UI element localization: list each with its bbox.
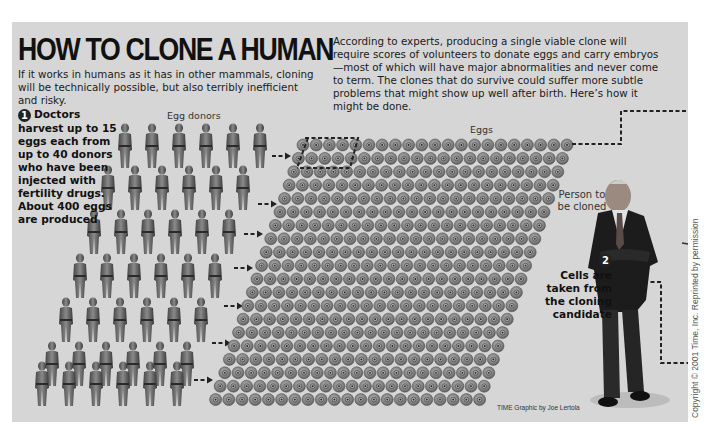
egg-cell-icon	[268, 340, 280, 352]
egg-cell-icon	[399, 380, 411, 392]
egg-cell-icon	[315, 394, 327, 406]
egg-cell-icon	[380, 166, 392, 178]
egg-cell-icon	[394, 394, 406, 406]
egg-cell-icon	[363, 139, 375, 151]
egg-cell-icon	[338, 367, 350, 379]
egg-cell-icon	[485, 206, 497, 218]
egg-cell-icon	[477, 152, 489, 164]
egg-cell-icon	[467, 260, 479, 272]
egg-cell-icon	[355, 394, 367, 406]
egg-cell-icon	[483, 367, 495, 379]
egg-cell-icon	[489, 273, 501, 285]
egg-cell-icon	[428, 219, 440, 231]
egg-cell-icon	[246, 327, 258, 339]
egg-cell-icon	[440, 260, 452, 272]
egg-cell-icon	[272, 327, 284, 339]
egg-cell-icon	[339, 246, 351, 258]
egg-cell-icon	[321, 300, 333, 312]
egg-cell-icon	[296, 179, 308, 191]
egg-cell-icon	[352, 286, 364, 298]
egg-cell-icon	[463, 233, 475, 245]
egg-cell-icon	[423, 233, 435, 245]
egg-cell-icon	[493, 300, 505, 312]
egg-cell-icon	[447, 394, 459, 406]
egg-cell-icon	[448, 313, 460, 325]
cells-to-next-step-line	[644, 282, 688, 363]
egg-cell-icon	[362, 179, 374, 191]
egg-cell-icon	[210, 394, 222, 406]
egg-cell-icon	[408, 353, 420, 365]
egg-cell-icon	[471, 286, 483, 298]
egg-cell-icon	[289, 394, 301, 406]
egg-cell-icon	[228, 340, 240, 352]
egg-cell-icon	[455, 139, 467, 151]
egg-cell-icon	[442, 139, 454, 151]
egg-cell-icon	[336, 179, 348, 191]
egg-cell-icon	[323, 179, 335, 191]
egg-cell-icon	[303, 313, 315, 325]
egg-cell-icon	[492, 340, 504, 352]
egg-cell-icon	[483, 327, 495, 339]
egg-cell-icon	[409, 273, 421, 285]
egg-cell-icon	[504, 152, 516, 164]
egg-cell-icon	[347, 340, 359, 352]
egg-cell-icon	[254, 340, 266, 352]
egg-cell-icon	[295, 260, 307, 272]
egg-cell-icon	[474, 353, 486, 365]
step-2-description: 2 Cells are taken from the cloning candi…	[532, 253, 612, 321]
egg-cell-icon	[427, 260, 439, 272]
egg-cell-icon	[466, 340, 478, 352]
egg-cell-icon	[293, 380, 305, 392]
egg-cell-icon	[414, 260, 426, 272]
egg-cell-icon	[375, 219, 387, 231]
egg-cell-icon	[421, 353, 433, 365]
egg-cell-icon	[378, 327, 390, 339]
egg-cell-icon	[365, 286, 377, 298]
egg-cell-icon	[419, 206, 431, 218]
egg-cell-icon	[286, 286, 298, 298]
egg-cell-icon	[502, 233, 514, 245]
egg-cell-icon	[362, 219, 374, 231]
egg-cell-icon	[319, 152, 331, 164]
egg-cell-icon	[237, 353, 249, 365]
egg-cell-icon	[366, 246, 378, 258]
egg-cell-icon	[415, 219, 427, 231]
egg-cell-icon	[241, 380, 253, 392]
egg-cell-icon	[340, 206, 352, 218]
egg-cell-icon	[377, 367, 389, 379]
egg-cell-icon	[333, 380, 345, 392]
egg-cell-icon	[467, 219, 479, 231]
egg-cell-icon	[351, 367, 363, 379]
egg-cell-icon	[470, 367, 482, 379]
egg-cell-icon	[268, 300, 280, 312]
egg-cell-icon	[267, 380, 279, 392]
egg-cell-icon	[428, 179, 440, 191]
egg-cell-icon	[391, 327, 403, 339]
egg-cell-icon	[372, 152, 384, 164]
egg-cell-icon	[437, 193, 449, 205]
egg-cell-icon	[506, 300, 518, 312]
egg-cell-icon	[416, 139, 428, 151]
egg-cell-icon	[427, 300, 439, 312]
egg-cell-icon	[249, 394, 261, 406]
egg-cell-icon	[358, 152, 370, 164]
egg-cell-icon	[469, 139, 481, 151]
egg-cell-icon	[332, 152, 344, 164]
egg-cell-icon	[232, 367, 244, 379]
copyright-notice: Copyright © 2001 Time, Inc. Reprinted by…	[690, 219, 700, 419]
egg-cell-icon	[309, 219, 321, 231]
egg-cell-icon	[366, 206, 378, 218]
egg-cell-icon	[318, 233, 330, 245]
egg-cell-icon	[276, 353, 288, 365]
egg-cell-icon	[373, 340, 385, 352]
egg-cell-icon	[328, 394, 340, 406]
egg-cell-icon	[371, 193, 383, 205]
egg-cell-icon	[501, 313, 513, 325]
egg-cell-icon	[279, 193, 291, 205]
egg-cell-icon	[311, 367, 323, 379]
egg-cell-icon	[479, 300, 491, 312]
egg-cell-icon	[361, 300, 373, 312]
egg-cell-icon	[521, 139, 533, 151]
egg-cell-icon	[392, 286, 404, 298]
egg-cell-icon	[506, 260, 518, 272]
